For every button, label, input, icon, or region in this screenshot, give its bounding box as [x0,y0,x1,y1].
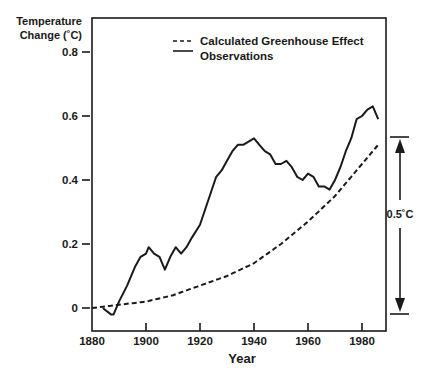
y-tick-label: 0 [72,302,78,314]
temperature-change-chart: Temperature Change (˚C) 00.20.40.60.8 18… [0,0,437,383]
x-tick-label: 1960 [295,335,321,347]
y-axis-ticks: 00.20.40.60.8 [62,46,90,314]
x-tick-label: 1920 [187,335,213,347]
x-tick-label: 1900 [133,335,159,347]
legend: Calculated Greenhouse Effect Observation… [173,35,364,62]
legend-label-calculated: Calculated Greenhouse Effect [200,35,364,47]
y-tick-label: 0.4 [62,174,79,186]
calculated-greenhouse-line [92,145,378,308]
y-tick-label: 0.2 [62,238,78,250]
arrow-down-icon [395,298,405,312]
y-axis-title-line2: Change (˚C) [20,29,83,41]
x-axis-title: Year [228,351,255,366]
y-tick-label: 0.8 [62,46,79,58]
y-tick-label: 0.6 [62,110,78,122]
observations-line [103,106,378,314]
plot-frame [92,18,386,331]
x-tick-label: 1940 [241,335,267,347]
x-tick-label: 1880 [79,335,105,347]
legend-label-observations: Observations [200,50,274,62]
x-axis-ticks: 188019001920194019601980 [79,323,375,347]
x-tick-label: 1980 [349,335,375,347]
bracket-annotation: 0.5˚C [387,137,414,314]
bracket-label: 0.5˚C [387,208,414,220]
y-axis-title-line1: Temperature [16,15,82,27]
arrow-up-icon [395,139,405,153]
